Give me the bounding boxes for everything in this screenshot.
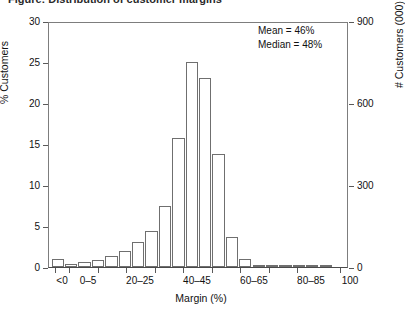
histogram-bar — [226, 237, 238, 267]
median-annotation: Median = 48% — [258, 38, 322, 52]
mean-annotation: Mean = 46% — [258, 24, 322, 38]
x-axis-tick-label: 80–85 — [297, 275, 325, 286]
histogram-bar — [105, 256, 117, 267]
histogram-bar — [279, 265, 291, 267]
histogram-bar — [186, 62, 198, 267]
histogram-bar — [320, 265, 332, 267]
histogram-bar — [132, 242, 144, 267]
left-axis-tick-label: 0 — [10, 262, 40, 273]
histogram-bar — [145, 231, 157, 267]
histogram-bar — [293, 265, 305, 267]
x-axis-tick-label: 100 — [342, 275, 359, 286]
x-axis-tick-label: 0–5 — [80, 275, 97, 286]
right-axis-tick-label: 0 — [357, 262, 391, 273]
left-axis-tick-label: 25 — [10, 57, 40, 68]
right-axis-tick-label: 600 — [357, 98, 391, 109]
histogram-bar — [52, 259, 64, 267]
right-axis-tick-label: 300 — [357, 180, 391, 191]
histogram-bar — [199, 78, 211, 267]
histogram-bar — [266, 265, 278, 267]
histogram-bar — [239, 259, 251, 267]
histogram-bars — [49, 23, 347, 267]
histogram-bar — [159, 206, 171, 268]
right-axis-tick-label: 900 — [357, 16, 391, 27]
summary-annotation: Mean = 46% Median = 48% — [258, 24, 322, 52]
left-axis-tick-label: 30 — [10, 16, 40, 27]
x-axis-title: Margin (%) — [0, 292, 402, 304]
left-axis-tick-label: 10 — [10, 180, 40, 191]
histogram-bar — [212, 154, 224, 267]
x-axis-tick-label: <0 — [56, 275, 67, 286]
histogram-bar — [78, 262, 90, 267]
histogram-bar — [92, 260, 104, 267]
x-axis-tick-label: 40–45 — [183, 275, 211, 286]
figure-title: Figure: Distribution of customer margins — [8, 0, 398, 5]
histogram-bar — [306, 265, 318, 267]
histogram-bar — [253, 265, 265, 267]
x-axis-tick-label: 60–65 — [240, 275, 268, 286]
right-axis-title: # Customers (000) — [393, 1, 405, 88]
left-axis-tick-label: 20 — [10, 98, 40, 109]
left-axis-title: % Customers — [0, 41, 10, 104]
left-axis-tick-label: 5 — [10, 221, 40, 232]
left-axis-tick-label: 15 — [10, 139, 40, 150]
x-axis-tick-label: 20–25 — [126, 275, 154, 286]
histogram-bar — [119, 251, 131, 267]
histogram-bar — [172, 138, 184, 267]
histogram-bar — [65, 264, 77, 267]
plot-area — [48, 22, 348, 268]
